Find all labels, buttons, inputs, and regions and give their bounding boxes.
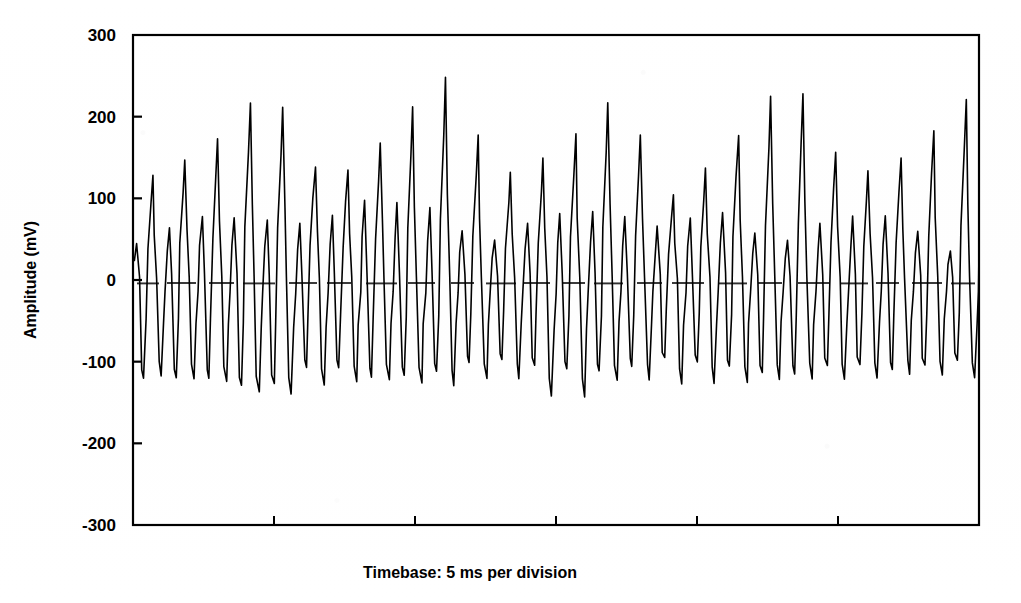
x-axis-ticks bbox=[274, 516, 838, 525]
y-axis-tick-label: -100 bbox=[82, 353, 116, 372]
y-axis-tick-label: -200 bbox=[82, 434, 116, 453]
y-axis-tick-labels: 3002001000-100-200-300 bbox=[82, 26, 116, 535]
oscillogram-plot: 3002001000-100-200-300 Amplitude (mV) Ti… bbox=[0, 0, 1021, 603]
y-axis-tick-label: 300 bbox=[88, 26, 116, 45]
y-axis-tick-label: -300 bbox=[82, 516, 116, 535]
y-axis-tick-label: 100 bbox=[88, 189, 116, 208]
y-axis-title: Amplitude (mV) bbox=[22, 221, 39, 339]
y-axis-tick-label: 200 bbox=[88, 108, 116, 127]
x-axis-title: Timebase: 5 ms per division bbox=[363, 564, 577, 581]
y-axis-tick-label: 0 bbox=[107, 271, 116, 290]
figure-root: 3002001000-100-200-300 Amplitude (mV) Ti… bbox=[0, 0, 1021, 603]
waveform-trace bbox=[133, 77, 979, 397]
y-axis-ticks bbox=[133, 117, 142, 444]
